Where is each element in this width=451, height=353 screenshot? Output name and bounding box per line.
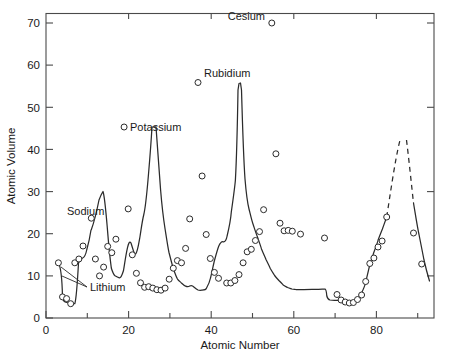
annotation-potassium: Potassium: [130, 121, 181, 133]
series-atomic-volume: [55, 20, 429, 307]
annotation-rubidium: Rubidium: [204, 67, 250, 79]
y-tick-label-10: 10: [27, 270, 40, 282]
x-tick-label-40: 40: [205, 324, 218, 336]
curve-dashed-fall: [407, 140, 414, 203]
curve-path: [58, 83, 386, 304]
y-axis-ticks: [46, 23, 53, 318]
atomic-volume-chart-figure: 70 60 50 40 30 20 10 0: [0, 0, 451, 353]
annotation-sodium: Sodium: [67, 205, 104, 217]
curve-tail: [414, 203, 430, 281]
x-tick-label-60: 60: [287, 324, 300, 336]
chart-canvas: 70 60 50 40 30 20 10 0: [0, 0, 451, 353]
y-axis-title: Atomic Volume: [5, 128, 17, 205]
annotation-cesium: Cesium: [228, 10, 265, 22]
y-tick-label-20: 20: [27, 228, 40, 240]
lithium-leader-line: [61, 267, 87, 287]
y-tick-label-70: 70: [27, 17, 40, 29]
x-tick-label-20: 20: [122, 324, 135, 336]
x-axis-title: Atomic Number: [200, 339, 279, 351]
curve-dashed-rise: [387, 140, 400, 217]
x-tick-label-80: 80: [370, 324, 383, 336]
annotation-lithium: Lithium: [90, 281, 125, 293]
y-tick-label-50: 50: [27, 102, 40, 114]
y-tick-label-30: 30: [27, 186, 40, 198]
y-tick-label-40: 40: [27, 144, 40, 156]
x-tick-label-0: 0: [43, 324, 49, 336]
y-tick-label-60: 60: [27, 59, 40, 71]
y-tick-label-0: 0: [34, 312, 40, 324]
